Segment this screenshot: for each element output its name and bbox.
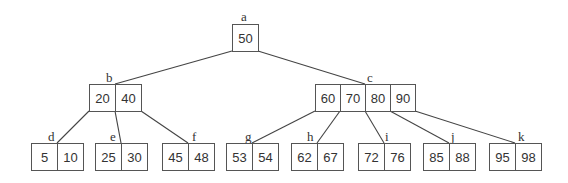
- node-key: 67: [317, 144, 343, 170]
- node-key: 54: [252, 144, 278, 170]
- tree-node-i: 7276: [358, 143, 411, 171]
- node-key: 50: [233, 25, 258, 51]
- node-key: 40: [115, 85, 141, 111]
- edge-a-c: [258, 51, 365, 84]
- node-label-e: e: [110, 130, 116, 143]
- edge-c-h: [317, 111, 340, 143]
- tree-node-c: 60708090: [315, 84, 416, 112]
- node-label-b: b: [106, 71, 113, 84]
- node-key: 85: [424, 144, 449, 170]
- tree-node-a: 50: [232, 24, 259, 52]
- tree-node-f: 4548: [162, 143, 215, 171]
- node-key: 48: [188, 144, 214, 170]
- edge-c-i: [365, 111, 384, 143]
- tree-node-b: 2040: [89, 84, 142, 112]
- tree-node-e: 2530: [95, 143, 148, 171]
- node-key: 70: [340, 85, 365, 111]
- node-key: 80: [365, 85, 390, 111]
- tree-node-h: 6267: [291, 143, 344, 171]
- node-key: 30: [121, 144, 147, 170]
- node-key: 98: [515, 144, 541, 170]
- edge-b-f: [141, 111, 188, 143]
- node-label-d: d: [48, 130, 55, 143]
- node-key: 88: [449, 144, 475, 170]
- node-label-h: h: [307, 130, 314, 143]
- edge-c-j: [390, 111, 449, 143]
- node-key: 62: [292, 144, 317, 170]
- node-key: 45: [163, 144, 188, 170]
- tree-node-k: 9598: [489, 143, 542, 171]
- edge-c-g: [252, 111, 315, 143]
- edge-b-d: [57, 111, 89, 143]
- node-label-f: f: [192, 130, 196, 143]
- node-key: 76: [384, 144, 410, 170]
- node-key: 60: [316, 85, 340, 111]
- node-label-c: c: [367, 71, 373, 84]
- tree-edges: [0, 0, 568, 183]
- node-key: 72: [359, 144, 384, 170]
- node-key: 25: [96, 144, 121, 170]
- tree-node-g: 5354: [226, 143, 279, 171]
- node-label-a: a: [241, 10, 247, 23]
- tree-node-d: 510: [31, 143, 84, 171]
- node-label-j: j: [451, 130, 455, 143]
- node-label-g: g: [245, 130, 252, 143]
- node-key: 95: [490, 144, 515, 170]
- node-label-k: k: [518, 130, 525, 143]
- node-key: 53: [227, 144, 252, 170]
- node-label-i: i: [385, 130, 389, 143]
- node-key: 10: [57, 144, 83, 170]
- node-key: 5: [32, 144, 57, 170]
- node-key: 20: [90, 85, 115, 111]
- b-tree-diagram: a50b2040c60708090d510e2530f4548g5354h626…: [0, 0, 568, 183]
- node-key: 90: [390, 85, 415, 111]
- edge-a-b: [115, 51, 232, 84]
- edge-c-k: [415, 111, 515, 143]
- tree-node-j: 8588: [423, 143, 476, 171]
